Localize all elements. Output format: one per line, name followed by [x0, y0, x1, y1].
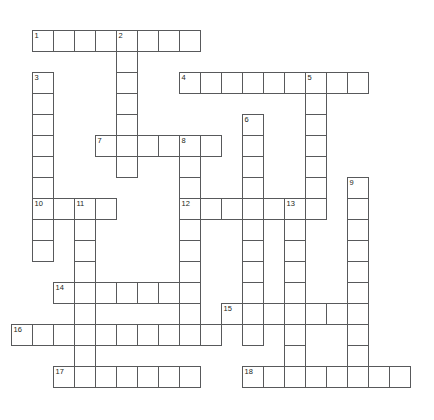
- crossword-cell[interactable]: [284, 366, 306, 388]
- crossword-cell[interactable]: [242, 198, 264, 220]
- crossword-cell[interactable]: [305, 114, 327, 136]
- crossword-cell[interactable]: [158, 324, 180, 346]
- crossword-cell[interactable]: [200, 198, 222, 220]
- crossword-cell[interactable]: [32, 240, 54, 262]
- crossword-cell[interactable]: [263, 198, 285, 220]
- crossword-cell[interactable]: [305, 135, 327, 157]
- crossword-cell[interactable]: [347, 261, 369, 283]
- crossword-cell[interactable]: [32, 219, 54, 241]
- crossword-cell[interactable]: [116, 114, 138, 136]
- crossword-cell[interactable]: 16: [11, 324, 33, 346]
- crossword-cell[interactable]: [242, 72, 264, 94]
- crossword-cell[interactable]: 9: [347, 177, 369, 199]
- crossword-cell[interactable]: [137, 30, 159, 52]
- crossword-cell[interactable]: [137, 366, 159, 388]
- crossword-cell[interactable]: 12: [179, 198, 201, 220]
- crossword-cell[interactable]: [200, 72, 222, 94]
- crossword-cell[interactable]: [221, 72, 243, 94]
- crossword-cell[interactable]: 10: [32, 198, 54, 220]
- crossword-cell[interactable]: [263, 366, 285, 388]
- crossword-cell[interactable]: [200, 135, 222, 157]
- crossword-cell[interactable]: 13: [284, 198, 306, 220]
- crossword-cell[interactable]: 7: [95, 135, 117, 157]
- crossword-cell[interactable]: [305, 303, 327, 325]
- crossword-cell[interactable]: [284, 219, 306, 241]
- crossword-cell[interactable]: [242, 324, 264, 346]
- crossword-cell[interactable]: [95, 282, 117, 304]
- crossword-cell[interactable]: [53, 198, 75, 220]
- crossword-cell[interactable]: [242, 282, 264, 304]
- crossword-cell[interactable]: 15: [221, 303, 243, 325]
- crossword-cell[interactable]: [32, 114, 54, 136]
- crossword-cell[interactable]: [179, 240, 201, 262]
- crossword-cell[interactable]: [179, 177, 201, 199]
- crossword-cell[interactable]: [305, 156, 327, 178]
- crossword-cell[interactable]: [326, 303, 348, 325]
- crossword-cell[interactable]: [74, 240, 96, 262]
- crossword-cell[interactable]: 8: [179, 135, 201, 157]
- crossword-cell[interactable]: [179, 156, 201, 178]
- crossword-cell[interactable]: [95, 30, 117, 52]
- crossword-cell[interactable]: [74, 324, 96, 346]
- crossword-cell[interactable]: [242, 219, 264, 241]
- crossword-cell[interactable]: 17: [53, 366, 75, 388]
- crossword-cell[interactable]: [179, 366, 201, 388]
- crossword-cell[interactable]: [95, 324, 117, 346]
- crossword-cell[interactable]: [284, 240, 306, 262]
- crossword-cell[interactable]: [74, 219, 96, 241]
- crossword-cell[interactable]: [305, 177, 327, 199]
- crossword-cell[interactable]: [284, 261, 306, 283]
- crossword-cell[interactable]: [158, 366, 180, 388]
- crossword-cell[interactable]: [242, 240, 264, 262]
- crossword-cell[interactable]: [74, 303, 96, 325]
- crossword-cell[interactable]: [221, 198, 243, 220]
- crossword-cell[interactable]: [32, 156, 54, 178]
- crossword-cell[interactable]: [32, 324, 54, 346]
- crossword-cell[interactable]: [347, 72, 369, 94]
- crossword-cell[interactable]: [95, 366, 117, 388]
- crossword-cell[interactable]: [32, 135, 54, 157]
- crossword-cell[interactable]: [116, 282, 138, 304]
- crossword-cell[interactable]: [368, 366, 390, 388]
- crossword-cell[interactable]: [263, 72, 285, 94]
- crossword-cell[interactable]: [200, 324, 222, 346]
- crossword-cell[interactable]: [326, 366, 348, 388]
- crossword-cell[interactable]: [284, 345, 306, 367]
- crossword-cell[interactable]: [116, 72, 138, 94]
- crossword-cell[interactable]: [284, 72, 306, 94]
- crossword-cell[interactable]: [242, 303, 264, 325]
- crossword-cell[interactable]: [116, 93, 138, 115]
- crossword-cell[interactable]: [179, 30, 201, 52]
- crossword-cell[interactable]: [347, 345, 369, 367]
- crossword-cell[interactable]: [74, 282, 96, 304]
- crossword-cell[interactable]: [347, 366, 369, 388]
- crossword-cell[interactable]: [242, 177, 264, 199]
- crossword-cell[interactable]: [284, 282, 306, 304]
- crossword-cell[interactable]: [53, 30, 75, 52]
- crossword-cell[interactable]: 2: [116, 30, 138, 52]
- crossword-cell[interactable]: [179, 303, 201, 325]
- crossword-cell[interactable]: 6: [242, 114, 264, 136]
- crossword-cell[interactable]: [347, 324, 369, 346]
- crossword-cell[interactable]: [158, 30, 180, 52]
- crossword-cell[interactable]: [284, 324, 306, 346]
- crossword-cell[interactable]: [347, 303, 369, 325]
- crossword-cell[interactable]: [32, 177, 54, 199]
- crossword-cell[interactable]: [347, 198, 369, 220]
- crossword-cell[interactable]: 1: [32, 30, 54, 52]
- crossword-cell[interactable]: 5: [305, 72, 327, 94]
- crossword-cell[interactable]: [53, 324, 75, 346]
- crossword-cell[interactable]: 14: [53, 282, 75, 304]
- crossword-puzzle-grid[interactable]: 123456789101112131415161718: [0, 0, 434, 420]
- crossword-cell[interactable]: [326, 72, 348, 94]
- crossword-cell[interactable]: [305, 93, 327, 115]
- crossword-cell[interactable]: [116, 156, 138, 178]
- crossword-cell[interactable]: [305, 198, 327, 220]
- crossword-cell[interactable]: [179, 282, 201, 304]
- crossword-cell[interactable]: [74, 261, 96, 283]
- crossword-cell[interactable]: [263, 303, 285, 325]
- crossword-cell[interactable]: [242, 261, 264, 283]
- crossword-cell[interactable]: [137, 135, 159, 157]
- crossword-cell[interactable]: 11: [74, 198, 96, 220]
- crossword-cell[interactable]: [242, 156, 264, 178]
